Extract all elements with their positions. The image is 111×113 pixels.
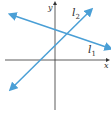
y-axis-label: y [47,3,53,12]
x-axis-label: x [104,61,109,70]
line-l1 [12,15,109,48]
line-l2 [12,11,90,88]
coordinate-plane: y x l2 l1 [0,0,111,113]
line-l1-label: l1 [88,43,96,58]
line-l2-label: l2 [72,6,80,21]
